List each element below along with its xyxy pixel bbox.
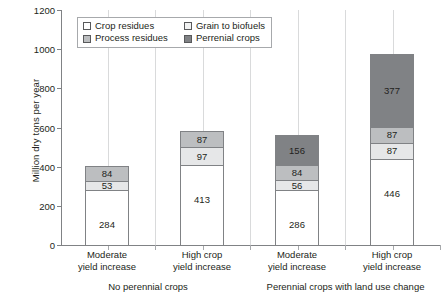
bar-segment-crop-residues[interactable]: 413 xyxy=(180,165,224,246)
x-axis-label-high-with-perennial: High crop yield increase xyxy=(337,249,447,273)
bar-segment-crop-residues[interactable]: 286 xyxy=(275,190,319,246)
legend-item-perennial-crops[interactable]: Perrenial crops xyxy=(184,33,265,43)
y-tick-label: 1200 xyxy=(34,5,55,16)
legend-swatch-icon xyxy=(184,35,192,43)
x-axis-label-moderate-no-perennial: Moderate yield increase xyxy=(52,249,162,273)
bar-segment-perennial-crops[interactable]: 156 xyxy=(275,135,319,166)
bar-segment-crop-residues[interactable]: 446 xyxy=(370,159,414,246)
y-tick-label: 400 xyxy=(39,161,55,172)
legend-label: Grain to biofuels xyxy=(196,21,265,31)
x-axis-label-line2: yield increase xyxy=(337,261,447,273)
x-axis-label-high-no-perennial: High crop yield increase xyxy=(147,249,257,273)
bar-segment-process-residues[interactable]: 84 xyxy=(275,165,319,181)
bar-segment-perennial-crops[interactable]: 377 xyxy=(370,54,414,128)
legend-label: Process residues xyxy=(95,33,168,43)
bar-segment-process-residues[interactable]: 84 xyxy=(85,166,129,182)
legend-label: Perrenial crops xyxy=(196,33,260,43)
bar-moderate-with-perennial[interactable]: 156 84 56 286 xyxy=(275,135,319,245)
bar-segment-process-residues[interactable]: 87 xyxy=(370,127,414,144)
y-axis-line xyxy=(61,10,62,245)
legend-swatch-icon xyxy=(83,22,91,30)
x-axis-label-line2: yield increase xyxy=(147,261,257,273)
bar-segment-process-residues[interactable]: 87 xyxy=(180,131,224,148)
group-label-no-perennial-crops: No perennial crops xyxy=(58,281,238,292)
y-tick-label: 600 xyxy=(39,122,55,133)
bar-moderate-no-perennial[interactable]: 84 53 284 xyxy=(85,166,129,245)
legend-label: Crop residues xyxy=(95,21,154,31)
bar-segment-grain-to-biofuels[interactable]: 87 xyxy=(370,143,414,160)
x-axis-label-line1: High crop xyxy=(147,249,257,261)
x-axis-label-moderate-with-perennial: Moderate yield increase xyxy=(242,249,352,273)
x-axis-label-line1: Moderate xyxy=(242,249,352,261)
bar-high-no-perennial[interactable]: 87 97 413 xyxy=(180,131,224,245)
bar-high-with-perennial[interactable]: 377 87 87 446 xyxy=(370,54,414,245)
group-label-perennial-with-land-use-change: Perennial crops with land use change xyxy=(248,281,443,292)
legend: Crop residues Grain to biofuels Process … xyxy=(77,17,272,48)
x-axis-label-line2: yield increase xyxy=(242,261,352,273)
legend-item-crop-residues[interactable]: Crop residues xyxy=(83,21,168,31)
stacked-bar-chart: Million dry tons per year 1200 1000 800 … xyxy=(0,0,447,303)
legend-item-grain-to-biofuels[interactable]: Grain to biofuels xyxy=(184,21,265,31)
x-axis-label-line1: Moderate xyxy=(52,249,162,261)
legend-item-process-residues[interactable]: Process residues xyxy=(83,33,168,43)
x-gridline xyxy=(345,10,346,245)
y-tick-label: 200 xyxy=(39,200,55,211)
x-axis-label-line2: yield increase xyxy=(52,261,162,273)
y-tick-label: 800 xyxy=(39,83,55,94)
legend-swatch-icon xyxy=(83,35,91,43)
legend-swatch-icon xyxy=(184,22,192,30)
bar-segment-grain-to-biofuels[interactable]: 97 xyxy=(180,147,224,166)
y-tick-label: 1000 xyxy=(34,44,55,55)
x-axis-label-line1: High crop xyxy=(337,249,447,261)
bar-segment-crop-residues[interactable]: 284 xyxy=(85,190,129,246)
